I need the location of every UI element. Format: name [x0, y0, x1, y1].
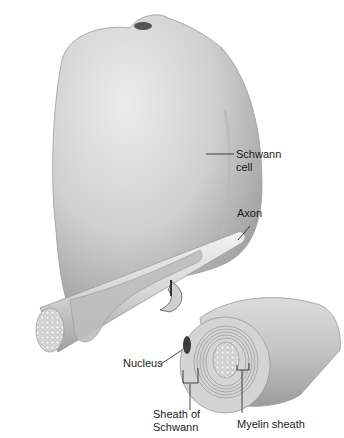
schwann-cell-diagram: Schwann cell Axon Nucleus Sheath of Schw…	[0, 0, 344, 438]
label-schwann-cell: Schwann cell	[236, 148, 281, 174]
myelinated-fiber-section	[180, 298, 340, 413]
label-nucleus: Nucleus	[123, 357, 163, 370]
axon-cross-section	[36, 308, 64, 352]
diagram-illustration	[0, 0, 344, 438]
nucleus-shape	[183, 336, 191, 354]
label-myelin-sheath: Myelin sheath	[237, 418, 305, 431]
label-axon: Axon	[237, 207, 262, 220]
axon-core	[213, 342, 239, 378]
cell-opening	[134, 22, 152, 30]
label-sheath-of-schwann: Sheath of Schwann	[153, 408, 200, 434]
